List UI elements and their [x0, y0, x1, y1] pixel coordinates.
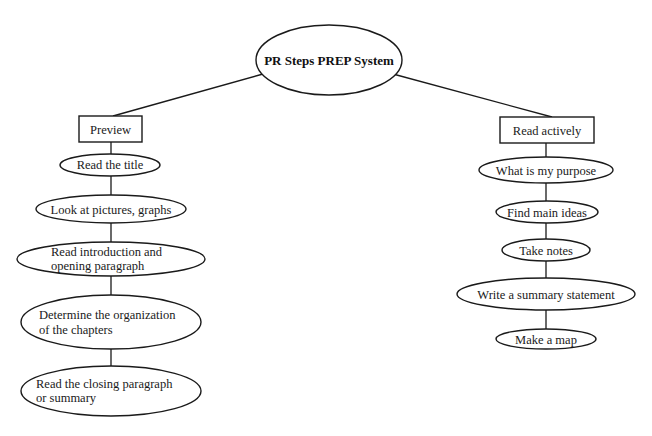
step-label-line-2: or summary [36, 391, 97, 405]
root-label: PR Steps PREP System [264, 53, 394, 68]
step-label-line-2: opening paragraph [51, 259, 145, 273]
step-label: Look at pictures, graphs [51, 203, 172, 217]
step-label: Make a map [515, 333, 577, 347]
step-label: Find main ideas [507, 206, 587, 220]
step-label: Write a summary statement [477, 288, 615, 302]
preview-label: Preview [90, 123, 131, 137]
step-determine-organization [21, 295, 201, 349]
step-label: Read the title [77, 158, 144, 172]
step-label-line-2: of the chapters [39, 323, 113, 337]
connectors [111, 74, 552, 396]
step-label-line-1: Read the closing paragraph [36, 377, 173, 391]
edge-root-read-actively [393, 74, 552, 117]
step-label-line-1: Read introduction and [51, 245, 163, 259]
step-label-line-1: Determine the organization [39, 308, 176, 322]
read-actively-label: Read actively [513, 124, 582, 138]
step-label: Take notes [519, 244, 573, 258]
branch-preview: Preview Read the title Look at pictures,… [17, 116, 205, 416]
root-node: PR Steps PREP System [256, 25, 402, 95]
edge-root-preview [113, 74, 263, 116]
step-label: What is my purpose [496, 164, 597, 178]
prep-system-diagram: PR Steps PREP System Preview Read the ti… [0, 0, 652, 436]
